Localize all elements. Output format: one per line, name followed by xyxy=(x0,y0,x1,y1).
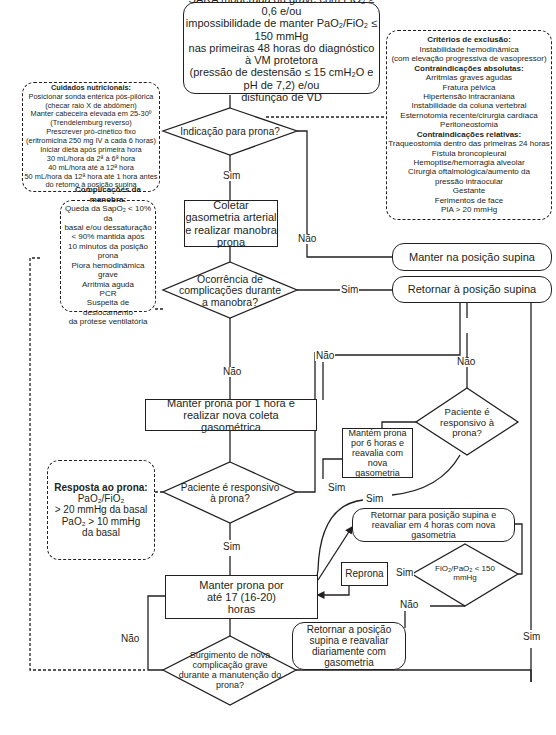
absolute-item: Fratura pélvica xyxy=(443,83,496,92)
complication-item: Arritmia aguda xyxy=(82,280,134,289)
label-no: Não xyxy=(456,357,476,367)
complication-item: 10 minutos da posição prona xyxy=(61,242,155,261)
relative-contraindications-title: Contraindicações relativas: xyxy=(417,130,521,139)
response-item: da basal xyxy=(82,527,120,538)
keep-prone-6h-box: Mantém prona por 6 horas e reavalia com … xyxy=(342,428,413,478)
label-yes: Sim xyxy=(327,483,346,493)
label-yes: Sim xyxy=(340,285,359,295)
exclusion-criteria-box: Critérios de exclusão: Instabilidade hem… xyxy=(386,30,552,220)
indication-decision: Indicação para prona? xyxy=(175,122,285,140)
relative-item: PIA > 20 mmHg xyxy=(441,205,497,214)
return-supine-box: Retornar à posição supina xyxy=(392,276,552,303)
relative-item: Fístula broncopleural xyxy=(432,149,507,158)
nutrition-care-box: Cuidados nutricionais: Posicionar sonda … xyxy=(22,82,160,192)
complication-item: da prótese ventilatória xyxy=(69,317,148,326)
label-no: Não xyxy=(315,351,335,361)
collect-gasometry-box: Coletar gasometria arterial e realizar m… xyxy=(184,200,278,247)
complication-item: basal e/ou dessaturação xyxy=(64,223,151,232)
start-line: disfunção de VD xyxy=(241,91,322,103)
absolute-item: Arritmias graves agudas xyxy=(426,73,512,82)
responsive-decision-1: Paciente é responsivo à prona? xyxy=(180,482,280,504)
label-yes: Sim xyxy=(222,171,241,181)
start-line: impossibilidade de manter PaO₂/FiO₂ ≤ 15… xyxy=(184,17,379,42)
label-yes: Sim xyxy=(522,632,541,642)
fio2-decision: FiO₂/PaO₂ < 150 mmHg xyxy=(435,562,495,586)
complication-item: Queda da SapO₂ < 10% da xyxy=(61,204,155,223)
responsive-decision-2: Paciente é responsivo à prona? xyxy=(440,406,494,440)
start-line: nas primeiras 48 horas do diagnóstico à … xyxy=(184,42,379,67)
label-no: Não xyxy=(120,634,140,644)
label-yes: Sim xyxy=(365,494,384,504)
absolute-item: Esternotomia recente/cirurgia cardíaca xyxy=(400,111,537,120)
label-no: Não xyxy=(222,367,242,377)
exclusion-title: Critérios de exclusão: xyxy=(427,35,511,44)
relative-item: Hemoptise/hemorragia alveolar xyxy=(413,158,524,167)
relative-item: Traqueostomia dentro das primeiras 24 ho… xyxy=(388,139,550,148)
absolute-item: Instabilidade da coluna vertebral xyxy=(411,101,526,110)
label-no: Não xyxy=(399,600,419,610)
prone-1h-box: Manter prona por 1 hora e realizar nova … xyxy=(145,399,317,431)
complication-item: PCR xyxy=(100,289,117,298)
absolute-contraindications-title: Contraindicações absolutas: xyxy=(414,64,523,73)
prone-17h-box: Manter prona por até 17 (16-20) horas xyxy=(165,575,318,619)
label-yes: Sim xyxy=(395,568,414,578)
response-title: Resposta ao prona: xyxy=(54,482,147,493)
response-item: PaO₂/FiO₂ xyxy=(78,493,125,504)
complication-item: Piora hemodinâmica grave xyxy=(61,261,155,280)
start-condition-box: SARA moderada ou grave com FiO₂ ≥ 0,6 e/… xyxy=(183,2,380,94)
keep-supine-box: Manter na posição supina xyxy=(392,243,552,271)
prone-response-box: Resposta ao prona: PaO₂/FiO₂ > 20 mmHg d… xyxy=(47,460,155,560)
reprona-box: Reprona xyxy=(341,562,388,586)
complications-title: Complicações da manobra: xyxy=(61,185,155,204)
absolute-item: Peritoneostomia xyxy=(440,120,498,129)
relative-item: Cirurgia oftalmológica/aumento da xyxy=(408,167,530,176)
complication-item: < 90% mantida após xyxy=(71,232,144,241)
return-supine-daily-box: Retornar a posição supina e reavaliar di… xyxy=(292,622,406,670)
exclusion-item: (com elevação progressiva de vasopressor… xyxy=(391,54,546,63)
return-supine-4h-box: Retornar para posição supina e reavaliar… xyxy=(352,508,515,542)
relative-item: Ferimentos de face xyxy=(435,196,503,205)
response-item: PaO₂ > 10 mmHg xyxy=(62,516,141,527)
absolute-item: Hipertensão intracraniana xyxy=(423,92,515,101)
label-no: Não xyxy=(297,234,317,244)
complications-decision: Ocorrência de complicações durante a man… xyxy=(178,274,282,308)
relative-item: Gestante xyxy=(453,186,485,195)
label-yes: Sim xyxy=(222,542,241,552)
figure-caption-cutoff xyxy=(0,727,556,735)
start-line: (pressão de destensão ≤ 15 cmH₂O e pH de… xyxy=(184,66,379,91)
maneuver-complications-box: Complicações da manobra: Queda da SapO₂ … xyxy=(60,200,156,312)
start-line: SARA moderada ou grave com FiO₂ ≥ 0,6 e/… xyxy=(184,0,379,17)
complication-item: Suspeita de deslocamento xyxy=(61,298,155,317)
relative-item: pressão intraocular xyxy=(435,177,503,186)
exclusion-item: Instabilidade hemodinâmica xyxy=(419,45,518,54)
new-complication-decision: Surgimento de nova complicação grave dur… xyxy=(178,654,282,688)
response-item: > 20 mmHg da basal xyxy=(55,504,148,515)
